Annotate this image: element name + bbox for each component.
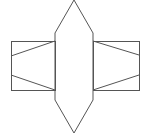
right-rectangle-face bbox=[94, 42, 140, 91]
left-diagonal-upper bbox=[11, 41, 55, 56]
right-diagonal-lower bbox=[93, 75, 139, 90]
right-diagonal-upper bbox=[93, 41, 139, 55]
center-hexagon-face bbox=[55, 0, 93, 133]
left-diagonal-lower bbox=[11, 75, 55, 90]
geometric-net-diagram bbox=[0, 0, 147, 139]
